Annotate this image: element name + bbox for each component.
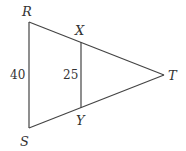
vertex-label-t: T <box>168 68 178 83</box>
length-label-xy: 25 <box>63 68 78 82</box>
point-label-x: X <box>74 23 85 38</box>
length-label-rs: 40 <box>10 68 25 82</box>
triangle-diagram: R S T X Y 40 25 <box>0 0 186 151</box>
vertex-label-r: R <box>21 4 32 19</box>
point-label-y: Y <box>76 113 86 128</box>
vertex-label-s: S <box>20 134 29 149</box>
segment-st <box>29 75 164 128</box>
segment-rt <box>29 22 164 75</box>
